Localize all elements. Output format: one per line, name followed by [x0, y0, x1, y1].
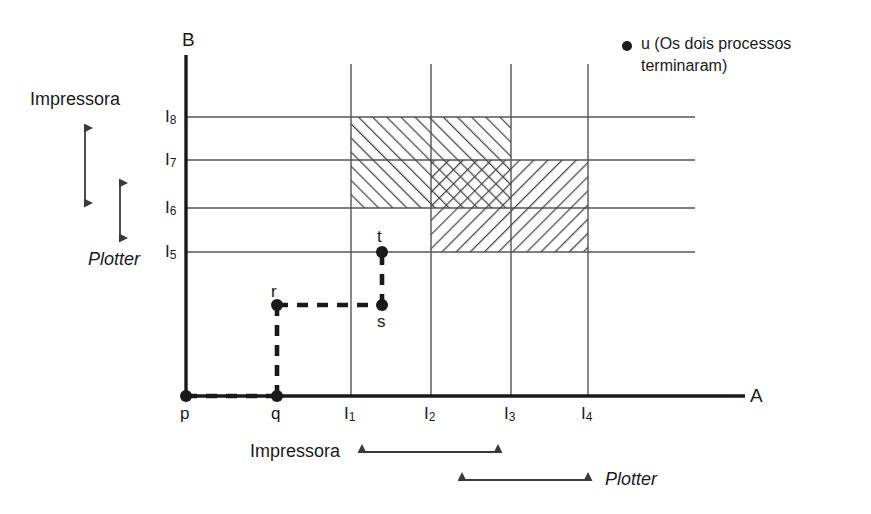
- execution-path: [186, 252, 382, 396]
- axis-b-label: B: [182, 30, 195, 49]
- point-label-t: t: [377, 228, 382, 245]
- forbidden-regions: [351, 117, 588, 252]
- path-point-markers: [180, 246, 388, 402]
- point-label-r: r: [271, 283, 277, 300]
- xtick-I1: I1: [344, 405, 355, 423]
- point-label-s: s: [377, 313, 386, 330]
- axis-a-label: A: [750, 386, 763, 405]
- point-marker-q: [271, 390, 283, 402]
- xtick-I3: I3: [504, 405, 515, 423]
- xtick-I2: I2: [424, 405, 435, 423]
- bottom-span-arrows: [362, 452, 588, 480]
- left-span-arrows: [85, 128, 120, 238]
- legend-line-1: u (Os dois processos: [641, 36, 791, 52]
- ytick-I7: I7: [165, 151, 176, 169]
- legend-dot-icon: [622, 41, 632, 51]
- bottom-label-plotter: Plotter: [605, 470, 657, 488]
- figure-canvas: B A u (Os dois processos terminaram) I8 …: [0, 0, 871, 514]
- point-marker-t: [376, 246, 388, 258]
- left-label-impressora: Impressora: [30, 90, 120, 108]
- ytick-I5: I5: [165, 243, 176, 261]
- point-marker-s: [376, 299, 388, 311]
- point-marker-p: [180, 390, 192, 402]
- ytick-I6: I6: [165, 199, 176, 217]
- xtick-I4: I4: [581, 405, 592, 423]
- bottom-label-impressora: Impressora: [250, 442, 340, 460]
- xtick-p: p: [180, 405, 189, 422]
- xtick-q: q: [271, 405, 280, 422]
- left-label-plotter: Plotter: [88, 250, 140, 268]
- plotter-conflict-region: [431, 160, 588, 252]
- ytick-I8: I8: [165, 108, 176, 126]
- legend-line-2: terminaram): [641, 58, 727, 74]
